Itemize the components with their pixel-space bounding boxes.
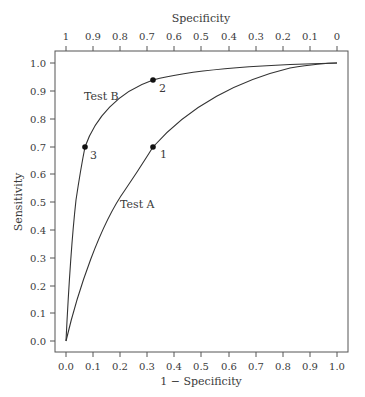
top-tick-label: 0.8 <box>112 31 128 42</box>
x-tick-label: 0.7 <box>248 361 264 372</box>
top-tick-label: 1 <box>63 31 69 42</box>
y-tick-label: 0.2 <box>30 281 46 292</box>
y-tick-label: 0.6 <box>30 169 46 180</box>
x-tick-label: 0.0 <box>58 361 74 372</box>
y-tick-label: 0.5 <box>30 197 46 208</box>
test-a-label: Test A <box>120 198 156 211</box>
top-tick-label: 0.7 <box>139 31 155 42</box>
x-tick-label: 0.2 <box>112 361 128 372</box>
top-tick-label: 0.2 <box>275 31 291 42</box>
y-tick-label: 0.0 <box>30 336 46 347</box>
y-axis: 0.0 0.1 0.2 0.3 0.4 0.5 0.6 0.7 0.8 0.9 … <box>30 58 55 347</box>
y-tick-label: 0.8 <box>30 114 46 125</box>
x-axis: 0.0 0.1 0.2 0.3 0.4 0.5 0.6 0.7 0.8 0.9 … <box>58 352 345 372</box>
x-axis-title: 1 − Specificity <box>160 375 242 388</box>
top-tick-label: 0 <box>334 31 340 42</box>
x-tick-label: 0.1 <box>85 361 101 372</box>
test-a-curve <box>66 63 337 341</box>
roc-chart: Specificity 1 0.9 0.8 0.7 0.6 0.5 0.4 0.… <box>0 0 365 397</box>
top-tick-label: 0.9 <box>85 31 101 42</box>
x-tick-label: 1.0 <box>329 361 345 372</box>
point-3-label: 3 <box>90 149 97 162</box>
point-1-label: 1 <box>160 148 167 161</box>
top-tick-label: 0.5 <box>193 31 209 42</box>
point-2-label: 2 <box>159 82 166 95</box>
y-tick-label: 0.4 <box>30 225 46 236</box>
top-axis: 1 0.9 0.8 0.7 0.6 0.5 0.4 0.3 0.2 0.1 0 <box>63 31 340 51</box>
y-tick-label: 0.3 <box>30 253 46 264</box>
x-tick-label: 0.4 <box>166 361 182 372</box>
point-2-marker <box>150 77 156 83</box>
top-tick-label: 0.6 <box>166 31 182 42</box>
x-tick-label: 0.5 <box>193 361 209 372</box>
top-tick-label: 0.4 <box>221 31 237 42</box>
top-tick-label: 0.1 <box>302 31 318 42</box>
point-3-marker <box>82 144 88 150</box>
y-axis-title: Sensitivity <box>12 172 25 231</box>
top-axis-title: Specificity <box>172 12 231 25</box>
y-tick-label: 1.0 <box>30 58 46 69</box>
x-tick-label: 0.8 <box>275 361 291 372</box>
test-b-label: Test B <box>84 90 119 103</box>
y-tick-label: 0.7 <box>30 142 46 153</box>
x-tick-label: 0.6 <box>221 361 237 372</box>
point-1-marker <box>150 144 156 150</box>
x-tick-label: 0.9 <box>302 361 318 372</box>
top-tick-label: 0.3 <box>248 31 264 42</box>
y-tick-label: 0.1 <box>30 308 46 319</box>
x-tick-label: 0.3 <box>139 361 155 372</box>
y-tick-label: 0.9 <box>30 86 46 97</box>
